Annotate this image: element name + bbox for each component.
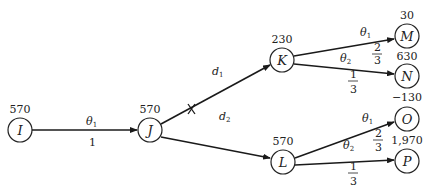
edge-prob-K-N: 1 3 [348,68,358,96]
edge-label-J-K: d1 [212,65,224,79]
node-O: O −130 [392,91,422,131]
node-K: K 230 [270,33,294,72]
edge-prob-K-M: 2 3 [372,41,382,67]
node-M: M 30 [395,9,419,48]
edge-label-L-O: θ1 [362,112,373,126]
node-value: 1,970 [391,134,423,147]
svg-text:3: 3 [374,54,381,67]
svg-text:3: 3 [350,175,357,188]
svg-text:1: 1 [350,160,357,173]
edge-prob-L-P: 1 3 [348,160,358,188]
edge-label-I-J: θ1 [86,115,97,129]
node-N: N 630 [395,50,419,88]
node-value: 570 [140,103,161,116]
svg-text:3: 3 [375,141,382,154]
svg-text:N: N [400,69,413,84]
node-I: I 570 [8,103,32,142]
node-value: 630 [397,50,418,63]
svg-text:1: 1 [350,68,357,81]
node-J: J 570 [138,103,162,142]
svg-text:I: I [16,123,23,138]
node-P: P 1,970 [391,134,423,173]
edge-J-L [161,137,270,158]
edge-prob-L-O: 2 3 [373,127,383,154]
node-value: 230 [272,33,293,46]
node-value: 570 [273,135,294,148]
svg-text:M: M [399,29,414,44]
edge-label-J-L: d2 [219,110,231,124]
node-L: L 570 [271,135,295,174]
svg-text:P: P [402,154,412,169]
node-value: 570 [10,103,31,116]
node-value: −130 [392,91,422,104]
node-value: 30 [400,9,414,22]
svg-text:2: 2 [375,127,382,140]
edge-label-K-N: θ2 [340,52,351,66]
svg-text:3: 3 [350,83,357,96]
edge-label-K-M: θ1 [360,26,371,40]
svg-text:O: O [402,112,413,127]
edge-prob-I-J: 1 [89,136,96,149]
svg-text:K: K [276,53,288,68]
edge-label-L-P: θ2 [343,139,354,153]
edge-L-P [295,160,394,165]
decision-tree-diagram: θ1 1 d1 d2 θ1 2 3 θ2 1 3 θ1 2 3 θ2 1 3 I… [0,0,431,192]
svg-text:L: L [278,155,288,170]
svg-text:2: 2 [374,41,381,54]
